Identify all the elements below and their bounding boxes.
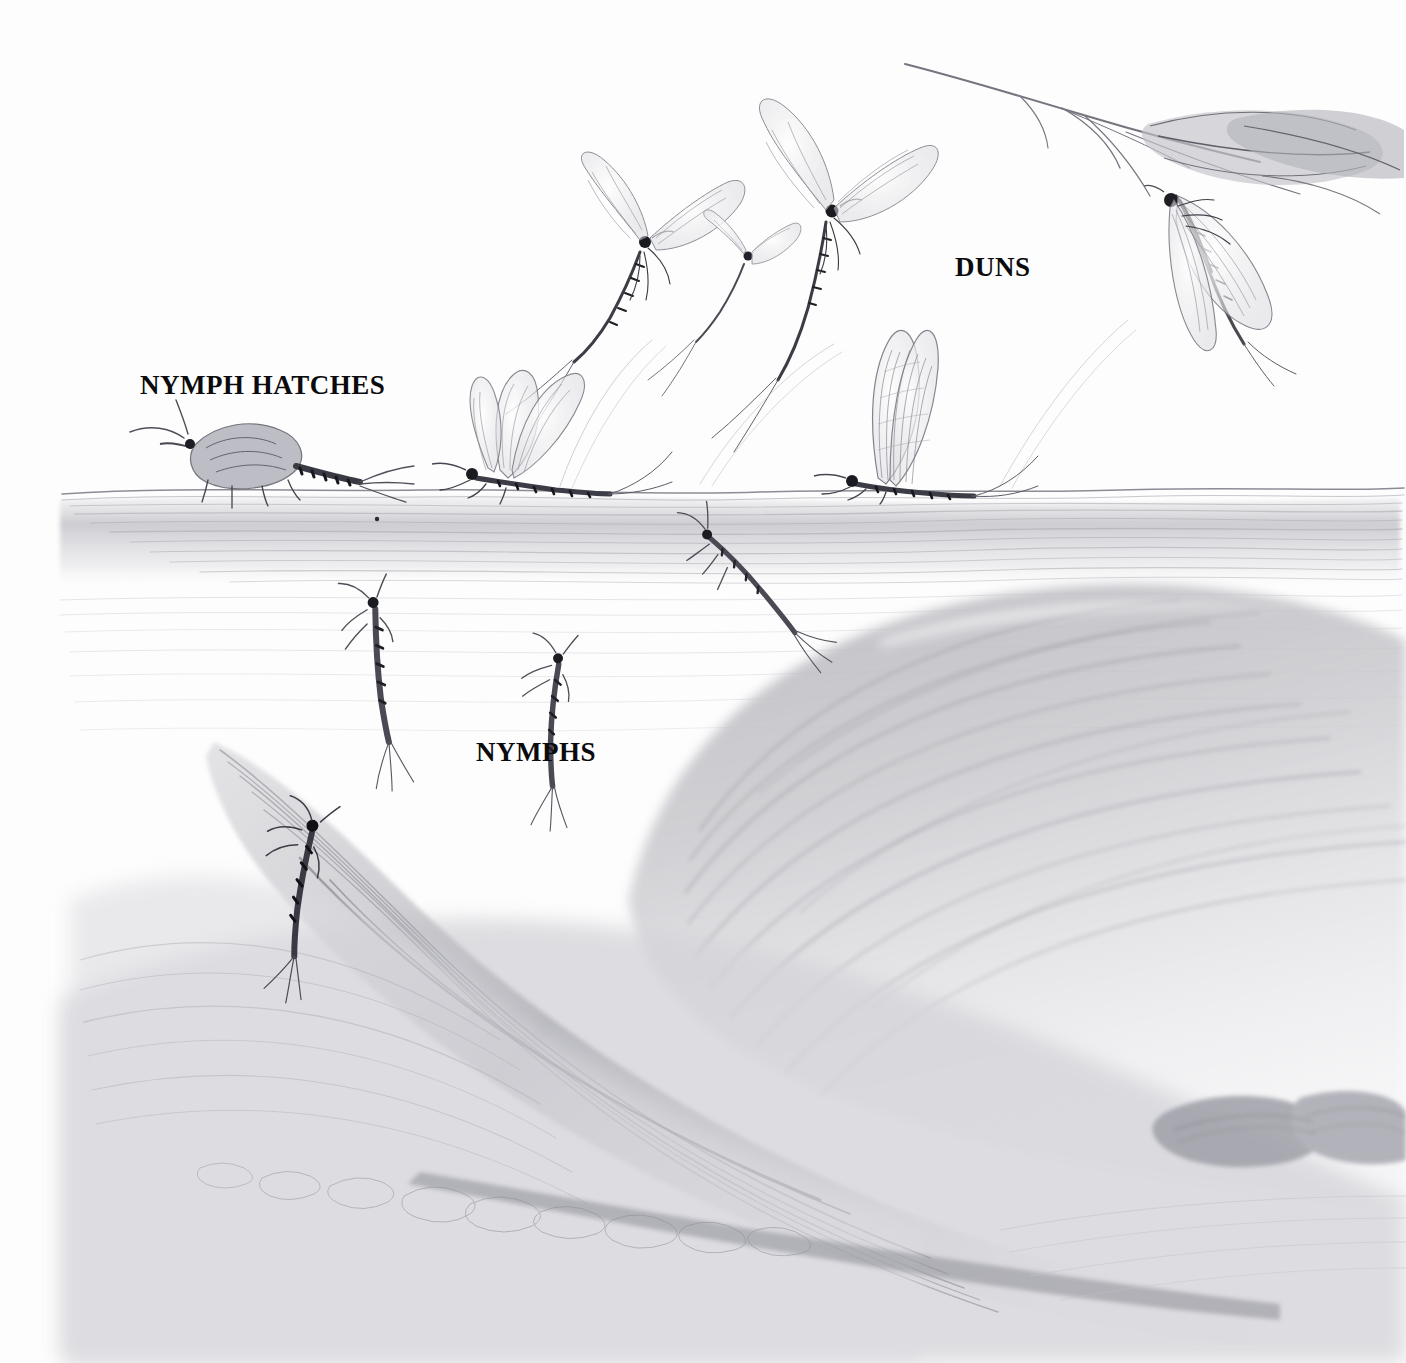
mid-water-texture (60, 594, 1402, 731)
surface-stroke-texture (70, 503, 1402, 583)
insect-art-layer (0, 0, 1406, 1363)
nymph-swimming-mid (462, 618, 641, 838)
willow-leaves (1142, 110, 1404, 214)
flying-dun-small (648, 210, 801, 396)
label-duns: DUNS (955, 252, 1031, 283)
sunken-stick (70, 742, 1250, 1363)
nymph-on-stick (187, 778, 410, 1010)
label-nymph-hatches: NYMPH HATCHES (140, 370, 385, 401)
perched-dun (1144, 185, 1296, 386)
submerged-boulder (628, 584, 1406, 1210)
illustration-canvas: NYMPH HATCHES DUNS NYMPHS (0, 0, 1406, 1363)
pebble-shadow (408, 1172, 1280, 1320)
nymph-swimming-upper (642, 492, 871, 675)
willow-branch (905, 64, 1300, 196)
emerging-nymph-shuck (130, 400, 414, 508)
label-nymphs: NYMPHS (476, 737, 596, 768)
nymph-swimming-left (311, 568, 442, 794)
waterline (62, 488, 1404, 500)
dun-on-surface-right (814, 330, 1038, 504)
lower-bank-tone (60, 918, 1406, 1363)
surface-speck (375, 517, 379, 521)
streambed-pebbles (197, 1163, 810, 1256)
flying-dun-low (506, 152, 745, 434)
flying-dun-high (712, 99, 938, 452)
emerging-dun-left (432, 370, 672, 504)
lower-right-flow (1000, 1196, 1406, 1300)
underwater-art-layer (0, 0, 1406, 1363)
water-surface-band (60, 496, 1400, 590)
dark-pebbles-right (1152, 1091, 1406, 1167)
flight-trails (560, 320, 1136, 488)
